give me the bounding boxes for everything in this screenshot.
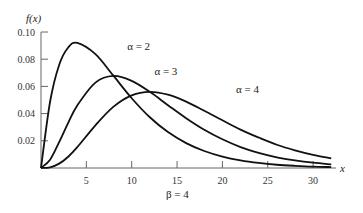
y-tick-label: 0.02 [18, 135, 36, 146]
x-axis-title: x [339, 162, 345, 174]
x-tick-label: 5 [84, 175, 89, 186]
labels: f(x) x β = 4 α = 2α = 3α = 4 [26, 12, 345, 200]
y-tick-label: 0.10 [18, 27, 36, 38]
y-tick-label: 0.06 [18, 81, 36, 92]
gamma-density-chart: 510152025300.100.080.060.040.02 f(x) x β… [0, 0, 363, 213]
curve-alpha-4 [41, 92, 331, 168]
y-axis-title: f(x) [26, 12, 42, 25]
curve-label-alpha-3: α = 3 [154, 65, 177, 77]
beta-label: β = 4 [166, 188, 189, 200]
density-curves [41, 43, 331, 168]
curve-label-alpha-4: α = 4 [236, 83, 259, 95]
y-tick-label: 0.08 [18, 54, 36, 65]
x-tick-label: 30 [308, 175, 318, 186]
x-tick-label: 15 [172, 175, 182, 186]
curve-label-alpha-2: α = 2 [127, 40, 150, 52]
y-tick-label: 0.04 [18, 108, 36, 119]
x-tick-label: 20 [217, 175, 227, 186]
curve-alpha-3 [41, 76, 331, 168]
x-tick-label: 10 [127, 175, 137, 186]
curve-alpha-2 [41, 43, 331, 168]
x-tick-label: 25 [263, 175, 273, 186]
